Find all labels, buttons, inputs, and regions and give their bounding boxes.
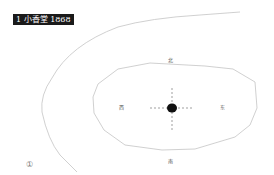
site-plan-diagram bbox=[0, 0, 274, 175]
label-east: 东 bbox=[220, 104, 225, 110]
outer-boundary-curve bbox=[42, 12, 240, 172]
figure-number: ① bbox=[26, 160, 33, 169]
label-west: 西 bbox=[119, 104, 124, 110]
label-south: 南 bbox=[168, 158, 173, 164]
label-north: 北 bbox=[168, 57, 173, 63]
center-marker bbox=[167, 104, 177, 113]
